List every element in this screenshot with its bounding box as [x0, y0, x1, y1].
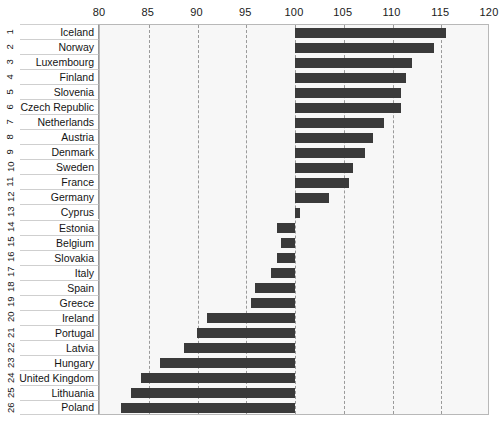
category-label: Cyprus — [20, 204, 99, 219]
row-index-text: 15 — [5, 237, 15, 248]
row-index: 19 — [0, 295, 20, 310]
row-index: 2 — [0, 39, 20, 54]
category-label: France — [20, 174, 99, 189]
category-label: Germany — [20, 189, 99, 204]
row-index-text: 24 — [5, 372, 15, 383]
bar — [295, 118, 384, 128]
bar — [295, 58, 412, 68]
bar — [121, 403, 295, 413]
row-index-text: 10 — [5, 162, 15, 173]
x-axis-tick-label: 90 — [190, 6, 203, 18]
row-index-text: 22 — [5, 342, 15, 353]
row-index: 12 — [0, 189, 20, 204]
category-label: Austria — [20, 129, 99, 144]
x-axis-tick-label: 110 — [382, 6, 400, 18]
row-index: 3 — [0, 54, 20, 69]
bar — [255, 283, 295, 293]
category-label: Poland — [20, 400, 99, 415]
bar — [295, 103, 401, 113]
category-label: Denmark — [20, 144, 99, 159]
category-label: Finland — [20, 69, 99, 84]
row-index-text: 12 — [5, 192, 15, 203]
row-index-text: 2 — [5, 44, 15, 49]
bar — [160, 358, 295, 368]
row-index-text: 18 — [5, 282, 15, 293]
bar — [295, 88, 401, 98]
bar — [295, 43, 434, 53]
bar — [295, 163, 353, 173]
x-axis-tick-label: 115 — [431, 6, 449, 18]
x-axis-tick-label: 80 — [93, 6, 106, 18]
row-index: 26 — [0, 400, 20, 415]
row-index: 16 — [0, 250, 20, 265]
bar — [184, 343, 295, 353]
bar — [271, 268, 295, 278]
category-label: Greece — [20, 295, 99, 310]
row-index: 14 — [0, 220, 20, 235]
bar — [295, 28, 446, 38]
category-label: Slovenia — [20, 84, 99, 99]
bar — [295, 73, 406, 83]
category-label: Portugal — [20, 325, 99, 340]
x-axis-top: 80859095100105110115120 — [0, 0, 500, 24]
category-label: Netherlands — [20, 114, 99, 129]
x-axis-tick-label: 120 — [480, 6, 499, 18]
category-label: Belgium — [20, 235, 99, 250]
bar — [131, 388, 295, 398]
bar — [141, 373, 295, 383]
row-index-text: 1 — [5, 29, 15, 34]
row-index: 20 — [0, 310, 20, 325]
bars-layer — [100, 25, 488, 414]
row-index: 13 — [0, 204, 20, 219]
bar — [207, 313, 295, 323]
row-index: 11 — [0, 174, 20, 189]
category-label: Sweden — [20, 159, 99, 174]
row-index-text: 14 — [5, 222, 15, 233]
row-index-text: 3 — [5, 59, 15, 64]
bar — [295, 178, 349, 188]
row-index-text: 25 — [5, 387, 15, 398]
category-label: Norway — [20, 39, 99, 54]
row-index-text: 8 — [5, 134, 15, 139]
row-index-text: 4 — [5, 74, 15, 79]
x-axis-tick-label: 95 — [239, 6, 252, 18]
row-index: 17 — [0, 265, 20, 280]
category-label: Luxembourg — [20, 54, 99, 69]
category-label: Lithuania — [20, 385, 99, 400]
row-index: 5 — [0, 84, 20, 99]
row-index-text: 17 — [5, 267, 15, 278]
bar — [295, 148, 365, 158]
row-index: 8 — [0, 129, 20, 144]
plot-area — [99, 24, 489, 415]
row-index: 10 — [0, 159, 20, 174]
category-label: Spain — [20, 280, 99, 295]
row-index-text: 11 — [5, 177, 15, 187]
row-index: 7 — [0, 114, 20, 129]
row-index-text: 19 — [5, 297, 15, 308]
x-axis-tick-label: 100 — [285, 6, 304, 18]
row-index-text: 16 — [5, 252, 15, 263]
row-index-text: 23 — [5, 357, 15, 368]
bar — [251, 298, 295, 308]
category-label: Slovakia — [20, 250, 99, 265]
bar — [295, 133, 373, 143]
row-index: 24 — [0, 370, 20, 385]
row-index: 21 — [0, 325, 20, 340]
bar — [277, 253, 295, 263]
row-index: 23 — [0, 355, 20, 370]
row-index-text: 6 — [5, 104, 15, 109]
row-index-text: 26 — [5, 402, 15, 413]
row-index-text: 7 — [5, 119, 15, 124]
category-label: Ireland — [20, 310, 99, 325]
row-index: 18 — [0, 280, 20, 295]
horizontal-bar-chart: 80859095100105110115120 1234567891011121… — [0, 0, 500, 436]
category-label: Czech Republic — [20, 99, 99, 114]
row-index-text: 20 — [5, 312, 15, 323]
bar — [281, 238, 295, 248]
row-index: 1 — [0, 24, 20, 39]
row-index: 4 — [0, 69, 20, 84]
x-axis-tick-label: 105 — [333, 6, 352, 18]
row-index-text: 21 — [5, 327, 15, 338]
category-label: Hungary — [20, 355, 99, 370]
category-label: Italy — [20, 265, 99, 280]
